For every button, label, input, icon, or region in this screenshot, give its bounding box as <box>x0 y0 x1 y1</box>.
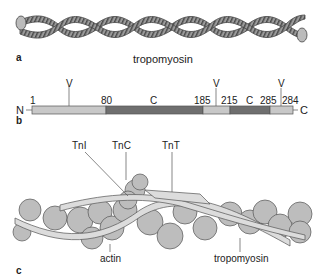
actin-label: actin <box>100 253 121 264</box>
panel-c-letter: c <box>16 265 22 276</box>
tropomyosin-label: tropomyosin <box>214 253 268 264</box>
tnt-label: TnT <box>162 140 180 151</box>
tni-label: TnI <box>72 140 86 151</box>
tnc-label: TnC <box>112 140 131 151</box>
